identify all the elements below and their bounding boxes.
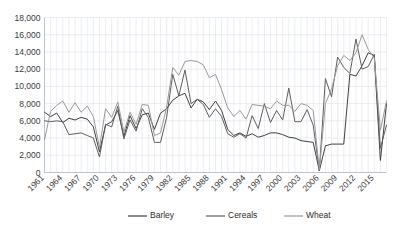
legend-item-cereals[interactable]: Cereals <box>206 210 257 220</box>
x-axis-tick-label: 1973 <box>99 173 120 194</box>
legend-item-barley[interactable]: Barley <box>128 210 175 220</box>
legend-label: Barley <box>150 210 175 220</box>
x-axis-tick-label: 1979 <box>135 173 156 194</box>
x-axis-tick-label: 1967 <box>62 173 83 194</box>
y-axis-tick-label: 14,000 <box>15 47 41 57</box>
x-axis-tick-labels: 1961196419671970197319761979198219851988… <box>25 173 375 194</box>
x-axis-tick-label: 2003 <box>282 173 303 194</box>
x-axis-tick-label: 2015 <box>355 173 376 194</box>
x-axis-tick-label: 2000 <box>264 173 285 194</box>
x-axis-tick-label: 1976 <box>117 173 138 194</box>
x-axis-tick-label: 1994 <box>227 173 248 194</box>
y-axis-tick-label: 2,000 <box>19 150 41 160</box>
x-axis-tick-label: 1988 <box>190 173 211 194</box>
chart-legend: BarleyCerealsWheat <box>128 210 331 220</box>
grid-layer <box>45 18 387 173</box>
x-axis-tick-label: 2012 <box>337 173 358 194</box>
x-axis-tick-label: 1982 <box>154 173 175 194</box>
chart-container: 18,00016,00014,00012,00010,0008,0006,000… <box>0 0 404 232</box>
x-axis-tick-label: 1985 <box>172 173 193 194</box>
x-axis-tick-label: 2006 <box>300 173 321 194</box>
x-axis-tick-label: 1964 <box>44 173 65 194</box>
line-chart: 18,00016,00014,00012,00010,0008,0006,000… <box>0 0 404 232</box>
y-axis-tick-label: 4,000 <box>19 133 41 143</box>
y-axis-tick-label: 12,000 <box>15 64 41 74</box>
legend-label: Cereals <box>228 210 257 220</box>
legend-label: Wheat <box>306 210 331 220</box>
y-axis-tick-label: 8,000 <box>19 99 41 109</box>
x-axis-tick-label: 1970 <box>80 173 101 194</box>
x-axis-tick-label: 2009 <box>319 173 340 194</box>
y-axis-tick-label: 16,000 <box>15 30 41 40</box>
x-axis-tick-label: 1997 <box>245 173 266 194</box>
y-axis-tick-label: 10,000 <box>15 81 41 91</box>
y-axis-tick-label: 18,000 <box>15 13 41 23</box>
x-axis-tick-label: 1991 <box>209 173 230 194</box>
y-axis-tick-labels: 18,00016,00014,00012,00010,0008,0006,000… <box>15 13 41 178</box>
legend-item-wheat[interactable]: Wheat <box>284 210 331 220</box>
x-axis-tick-label: 1961 <box>25 173 46 194</box>
y-axis-tick-label: 6,000 <box>19 116 41 126</box>
